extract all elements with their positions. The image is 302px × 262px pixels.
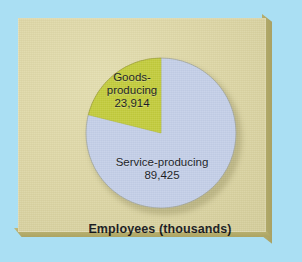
slice-value-service-producing: 89,425: [102, 169, 222, 182]
slice-label-goods-producing: Goods- producing 23,914: [93, 71, 171, 110]
slice-label-goods-line2: producing: [93, 84, 171, 97]
slice-value-goods-producing: 23,914: [93, 97, 171, 110]
slice-label-service-producing: Service-producing 89,425: [102, 156, 222, 182]
slice-label-service-line1: Service-producing: [102, 156, 222, 169]
pie-chart-figure: Goods- producing 23,914 Service-producin…: [0, 0, 302, 262]
slice-label-goods-line1: Goods-: [93, 71, 171, 84]
chart-caption: Employees (thousands): [36, 222, 284, 236]
chart-panel: Goods- producing 23,914 Service-producin…: [18, 18, 266, 232]
